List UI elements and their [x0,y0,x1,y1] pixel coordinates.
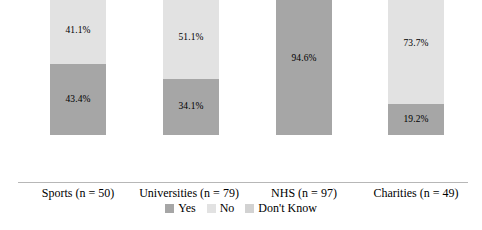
x-axis-baseline [18,182,468,183]
bar-segment-label: 41.1% [65,26,90,36]
plot-area: 43.4% 41.1% 15.5% 34.1% 51.1% 14.8% [0,0,482,183]
bar-segment-universities-yes[interactable]: 34.1% [163,79,219,135]
legend-item-dont-know[interactable]: Don't Know [245,202,317,215]
legend-item-label: Yes [178,202,195,215]
bar-segment-label: 34.1% [178,102,203,112]
legend-item-yes[interactable]: Yes [165,202,195,215]
bar-segment-universities-no[interactable]: 51.1% [163,0,219,79]
x-axis-label-charities: Charities (n = 49) [341,186,482,200]
bar-segment-label: 19.2% [403,115,428,125]
legend-item-label: No [220,202,235,215]
legend-swatch-icon [165,204,174,213]
bar-segment-sports-no[interactable]: 41.1% [50,0,106,64]
bar-group-universities[interactable]: 34.1% 51.1% 14.8% [163,0,219,135]
bar-group-sports[interactable]: 43.4% 41.1% 15.5% [50,0,106,135]
bar-segment-charities-yes[interactable]: 19.2% [388,104,444,135]
legend-swatch-icon [245,204,254,213]
bar-segment-label: 43.4% [65,95,90,105]
legend-item-no[interactable]: No [207,202,235,215]
bar-segment-label: 73.7% [403,39,428,49]
bar-group-charities[interactable]: 19.2% 73.7% 7.1% [388,0,444,135]
chart-legend: Yes No Don't Know [0,202,482,215]
legend-swatch-icon [207,204,216,213]
bar-segment-charities-no[interactable]: 73.7% [388,0,444,104]
bar-segment-label: 94.6% [291,54,316,64]
legend-item-label: Don't Know [258,202,317,215]
bar-segment-label: 51.1% [178,33,203,43]
stacked-bar-chart: 43.4% 41.1% 15.5% 34.1% 51.1% 14.8% [0,0,482,230]
bar-segment-nhs-yes[interactable]: 94.6% [276,0,332,135]
bar-group-nhs[interactable]: 94.6% 4.4% 1.0% [276,0,332,135]
bar-segment-sports-yes[interactable]: 43.4% [50,64,106,135]
